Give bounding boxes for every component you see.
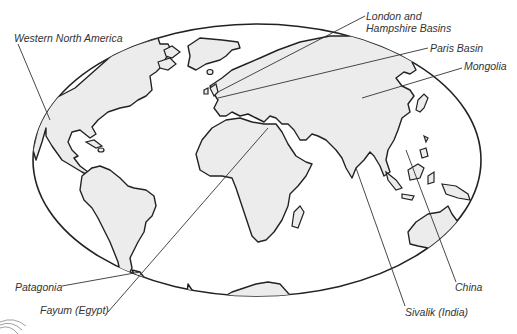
leader-western-north-america: [18, 44, 50, 120]
corner-decoration: [0, 320, 26, 334]
label-fayum: Fayum (Egypt): [40, 304, 109, 316]
island-new-zealand-south: [448, 258, 458, 268]
label-patagonia: Patagonia: [15, 281, 62, 293]
label-london-hampshire: London and Hampshire Basins: [366, 10, 451, 34]
label-china: China: [455, 281, 482, 293]
leader-patagonia: [62, 272, 140, 286]
label-london-line2: Hampshire Basins: [366, 22, 451, 34]
label-mongolia: Mongolia: [464, 60, 507, 72]
label-paris-basin: Paris Basin: [430, 42, 483, 54]
island-new-zealand-north: [466, 242, 472, 254]
label-london-line1: London and: [366, 10, 451, 22]
island-hispaniola: [98, 148, 104, 152]
island-iceland: [207, 70, 213, 75]
label-western-north-america: Western North America: [14, 32, 123, 44]
island-philippines: [420, 148, 428, 158]
label-sivalik: Sivalik (India): [405, 306, 468, 318]
